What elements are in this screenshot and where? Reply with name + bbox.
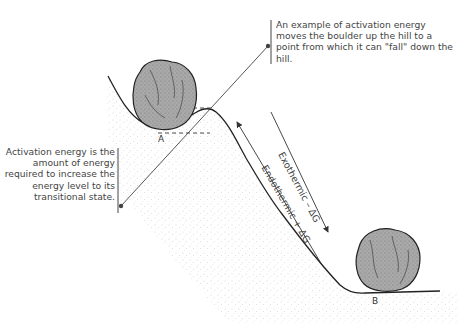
top-callout-text: An example of activation energy moves th… [276, 19, 456, 64]
point-a-label: A [158, 134, 164, 144]
left-callout-text: Activation energy is the amount of energ… [0, 146, 115, 202]
left-leader-dot [119, 204, 123, 208]
boulder-a-icon [133, 60, 197, 129]
activation-energy-diagram: An example of activation energy moves th… [0, 0, 459, 323]
boulder-b-icon [356, 229, 420, 292]
point-b-label: B [372, 296, 378, 306]
top-leader-dot [266, 44, 270, 48]
